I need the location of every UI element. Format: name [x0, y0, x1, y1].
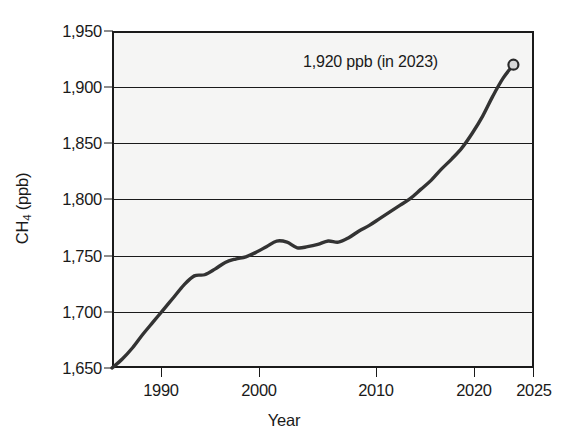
- x-tick-label-2025: 2025: [516, 381, 552, 400]
- annotation-label: 1,920 ppb (in 2023): [303, 53, 438, 71]
- x-tick-mark-1990: [161, 368, 162, 377]
- gridline-1750: [114, 256, 532, 257]
- x-tick-mark-2020: [474, 368, 475, 377]
- x-tick-mark-2000: [259, 368, 260, 377]
- x-tick-mark-2010: [376, 368, 377, 377]
- gridline-1800: [114, 199, 532, 200]
- gridline-1900: [114, 87, 532, 88]
- ch4-concentration-chart: CH4 (ppb) 1,950 1,900 1,850 1,800 1,750 …: [0, 0, 568, 446]
- y-tick-label-1650: 1,650: [14, 359, 102, 378]
- y-tick-label-1900: 1,900: [14, 78, 102, 97]
- x-tick-label-2020: 2020: [456, 381, 492, 400]
- y-tick-label-1800: 1,800: [14, 190, 102, 209]
- y-tick-label-1950: 1,950: [14, 22, 102, 41]
- y-tick-label-1750: 1,750: [14, 247, 102, 266]
- x-tick-label-2010: 2010: [358, 381, 394, 400]
- plot-area: [112, 31, 534, 368]
- gridline-1850: [114, 143, 532, 144]
- y-axis-title-prefix: CH: [13, 221, 31, 244]
- x-tick-mark-2025: [533, 368, 534, 377]
- x-axis-title: Year: [0, 411, 568, 430]
- x-tick-label-1990: 1990: [143, 381, 179, 400]
- y-tick-label-1700: 1,700: [14, 303, 102, 322]
- y-axis-title-subscript: 4: [21, 215, 33, 221]
- x-tick-label-2000: 2000: [241, 381, 277, 400]
- gridline-1700: [114, 312, 532, 313]
- y-tick-label-1850: 1,850: [14, 134, 102, 153]
